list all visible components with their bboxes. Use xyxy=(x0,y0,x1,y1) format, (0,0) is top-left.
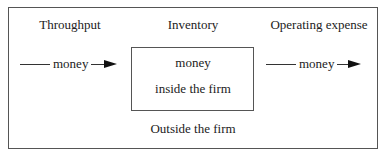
inventory-heading: Inventory xyxy=(168,17,219,33)
flow-line xyxy=(91,64,104,65)
flow-label: money xyxy=(299,56,334,72)
flow-line xyxy=(20,64,50,65)
throughput-heading: Throughput xyxy=(39,17,100,33)
arrow-right-icon xyxy=(104,60,117,68)
flow-line xyxy=(266,64,296,65)
flow-label: money xyxy=(53,56,88,72)
arrow-right-icon xyxy=(348,60,361,68)
operating-expense-heading: Operating expense xyxy=(270,17,367,33)
throughput-money-flow: money xyxy=(20,56,117,72)
flow-line xyxy=(337,64,348,65)
inventory-money-label: money xyxy=(175,55,210,71)
outside-firm-label: Outside the firm xyxy=(150,121,235,137)
inside-firm-label: inside the firm xyxy=(155,81,231,97)
operating-expense-money-flow: money xyxy=(266,56,361,72)
